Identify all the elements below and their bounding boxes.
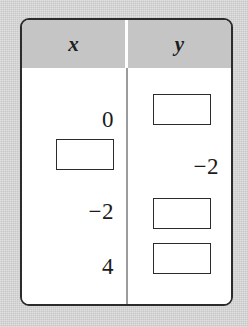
table-cell-x-1: 0 [22,100,114,138]
column-header-x: x [22,20,125,68]
column-header-y: y [128,20,231,68]
table-cell-x-3: −2 [22,192,114,230]
cell-value-x-1: 0 [102,108,114,131]
table-cell-x-4: 4 [22,247,114,285]
column-header-y-label: y [175,34,184,55]
table-cell-y-3[interactable] [153,194,225,232]
value-table: x y 0 −2 4 [20,18,233,306]
cell-value-x-3: −2 [89,200,114,223]
table-cell-y-4[interactable] [153,239,225,277]
table-header-row: x y [22,20,231,68]
answer-box-y-3[interactable] [153,198,211,229]
table-cell-y-2: −2 [153,147,225,185]
column-y: −2 [127,68,231,304]
table-body: 0 −2 4 −2 [22,68,231,304]
answer-box-y-4[interactable] [153,243,211,274]
column-header-x-label: x [68,34,79,55]
cell-value-x-4: 4 [102,255,114,278]
answer-box-x-2[interactable] [56,139,114,170]
table-cell-x-2[interactable] [22,135,114,173]
table-cell-y-1[interactable] [153,90,225,128]
cell-value-y-2: −2 [153,155,225,178]
answer-box-y-1[interactable] [153,94,211,125]
column-x: 0 −2 4 [22,68,126,304]
